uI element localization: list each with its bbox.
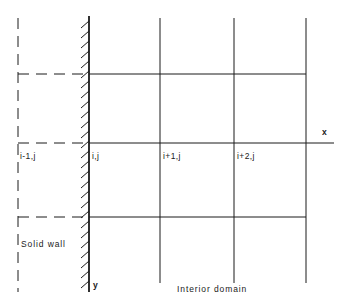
node-label-i-plus-2-j: i+2,j <box>237 152 255 161</box>
solid-wall-hatching <box>81 21 89 288</box>
interior-domain-annotation: Interior domain <box>177 285 247 294</box>
node-label-i-j: i,j <box>92 152 99 161</box>
solid-wall-annotation: Solid wall <box>21 240 66 249</box>
node-label-i-plus-1-j: i+1,j <box>163 152 181 161</box>
y-axis-label: y <box>93 281 98 290</box>
finite-difference-grid-diagram: i-1,j i,j i+1,j i+2,j x y Solid wall Int… <box>0 0 347 307</box>
node-label-i-minus-1-j: i-1,j <box>20 152 36 161</box>
x-axis-label: x <box>322 128 327 137</box>
